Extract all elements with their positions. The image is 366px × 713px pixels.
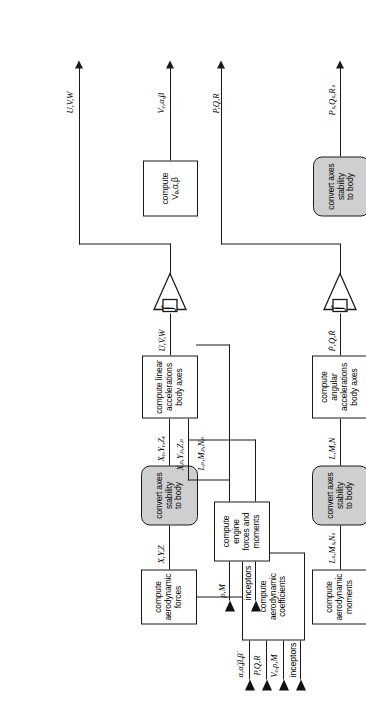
block-convert-axes-stability-to-body-rates-label: convert axes stability to body [327,163,357,209]
source-marker-pqr-coeff [262,679,272,690]
signal-ps-qs-rs-out: Pₛ,Qₛ,Rₛ [327,85,337,115]
signal-ls-ms-ns: Lₛ,Mₛ,Nₛ [327,532,337,563]
signal-inceptors-engine: inceptors [243,565,253,600]
signal-xp-yp-zp: Xₚ,Yₚ,Zₚ [175,439,185,470]
wire-pqr-coeff [266,640,267,679]
wire-engine-out-forces [229,479,230,501]
source-marker-inceptors-engine [251,600,261,611]
signal-vc-alpha-beta-out: Vₑ,α,β [156,92,166,113]
signal-xb-yb-zb: Xₑ,Yₑ,Zₑ [156,435,166,461]
wire-pqr-out [221,67,222,244]
wire-xyz [169,525,170,569]
wire-l-m-n [340,418,341,465]
wire-coeff-to-aeromoments [196,344,230,345]
wire-coeff-out-stub [229,596,243,597]
block-convert-axes-stability-to-body-moments-label: convert axes stability to body [326,472,356,518]
integral-symbol: ∫ [159,306,176,310]
diagram-canvas: compute aerodynamic coefficients α,α̇,β,… [0,0,366,713]
wire-alpha-input [249,640,250,679]
wire-inceptors-coeff [300,640,301,679]
wire-xb-yb-zb [169,418,170,465]
source-marker-rho-m-engine [225,600,235,611]
block-compute-aerodynamic-forces[interactable]: compute aerodynamic forces [141,569,197,624]
wire-ps-qs-rs-out [340,67,341,156]
arrow-vc-alpha-beta-out [166,60,174,68]
signal-alpha-rates: α,α̇,β,β̇ [235,653,245,677]
block-compute-aerodynamic-moments-label: compute aerodynamic moments [325,573,355,620]
wire-udot-vdot-wdot [170,313,171,355]
signal-l-m-n: L,M,N [327,437,337,459]
block-compute-angular-accelerations[interactable]: compute angular accelerations body axes [312,355,366,418]
wire-vc-alpha-beta-out [170,67,171,160]
signal-udot-vdot-wdot: U̇,V̇,Ẇ [157,329,167,351]
wire-uvw-out [79,67,80,244]
wire-uvw-branch-up [79,243,171,244]
wire-integ1-out [170,243,171,275]
wire-integ2-out [340,243,341,275]
block-compute-linear-accelerations[interactable]: compute linear accelerations body axes [142,355,198,418]
wire-pqr-branch-up [221,243,340,244]
source-marker-vc-rho-m [279,679,289,690]
signal-uvw-out: U,V,W [65,91,75,113]
block-compute-angular-accelerations-label: compute angular accelerations body axes [320,357,360,416]
block-compute-engine-forces-and-moments[interactable]: compute engine forces and moments [214,501,270,561]
signal-inceptors-coeff: inceptors [288,642,298,677]
block-convert-axes-stability-to-body-forces[interactable]: convert axes stability to body [141,465,198,525]
wire-vc-rho-m [283,640,284,679]
source-marker-alpha [245,679,255,690]
signal-vc-rho-m: Vₑ,ρ,M [269,654,279,677]
signal-rho-m-engine: ρ,M [217,584,227,597]
integrator-linear[interactable]: ∫ [153,269,187,313]
wire-engine-moments-join [188,418,189,440]
arrow-ps-qs-rs-out [336,60,344,68]
arrow-pqr-out [217,60,225,68]
block-convert-axes-stability-to-body-moments[interactable]: convert axes stability to body [312,465,366,525]
arrow-uvw-out [75,60,83,68]
integral-symbol: ∫ [329,306,346,310]
signal-pqr-out: P,Q,R [211,93,221,113]
block-compute-aerodynamic-moments[interactable]: compute aerodynamic moments [312,569,366,624]
wire-engine-out-moments [255,439,256,501]
signal-pqr-coeff: P,Q,R [252,655,262,675]
signal-x-y-z: X,Y,Z [156,545,166,563]
wire-inceptors-engine [255,561,256,600]
integrator-angular[interactable]: ∫ [323,269,357,313]
wire-pdot-qdot-rdot [340,313,341,355]
source-marker-inceptors-coeff [296,679,306,690]
block-compute-vc-alpha-beta[interactable]: compute Vₑ,α,β [143,160,198,216]
block-convert-axes-stability-to-body-rates[interactable]: convert axes stability to body [313,156,366,216]
block-diagram: compute aerodynamic coefficients α,α̇,β,… [0,0,366,713]
signal-pdot-qdot-rdot: Ṗ,Q̇,Ṙ [327,330,337,351]
signal-lp-mp-np: Lₚ,Mₚ,Nₚ [196,436,206,470]
wire-engine-up-forces [188,479,230,480]
wire-ls-ms-ns [340,525,341,569]
wire-rho-m-engine [229,561,230,600]
